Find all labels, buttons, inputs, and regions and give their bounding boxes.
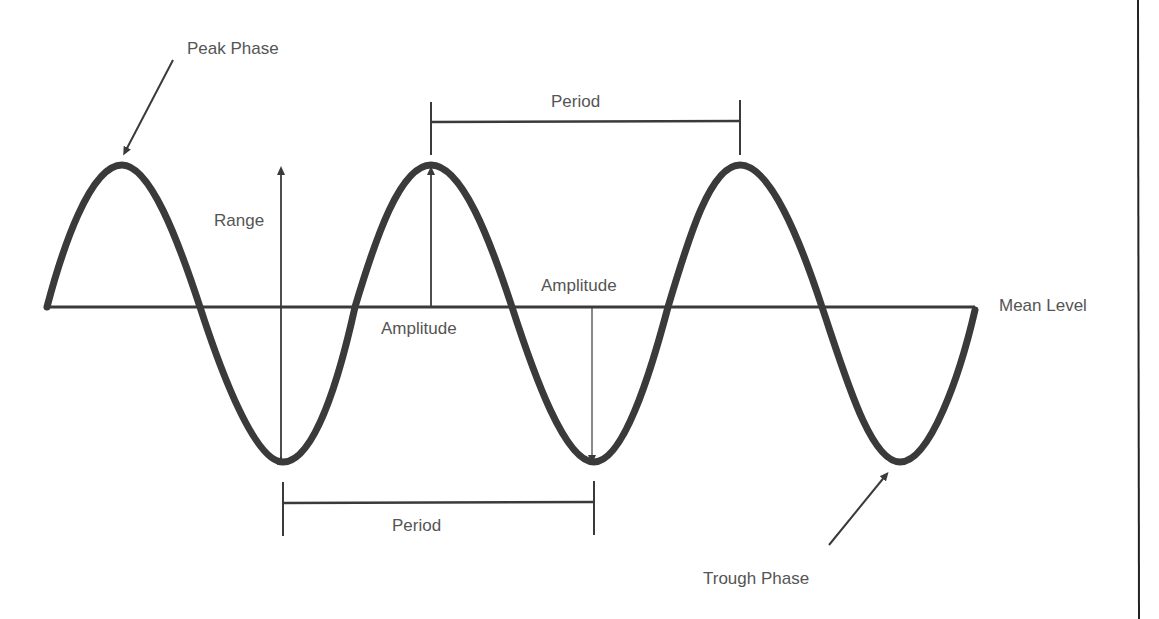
- wave-curve: [47, 165, 975, 462]
- peak-phase-label: Peak Phase: [187, 40, 279, 57]
- trough-phase-arrow: [829, 475, 886, 545]
- amplitude-lower-label: Amplitude: [381, 320, 457, 337]
- right-border-line: [1138, 0, 1139, 619]
- amplitude-upper-label: Amplitude: [541, 277, 617, 294]
- mean-level-label: Mean Level: [999, 297, 1087, 314]
- peak-phase-arrow: [125, 60, 173, 152]
- trough-phase-label: Trough Phase: [703, 570, 809, 587]
- range-label: Range: [214, 212, 264, 229]
- period-top-label: Period: [551, 93, 600, 110]
- period-bottom-label: Period: [392, 517, 441, 534]
